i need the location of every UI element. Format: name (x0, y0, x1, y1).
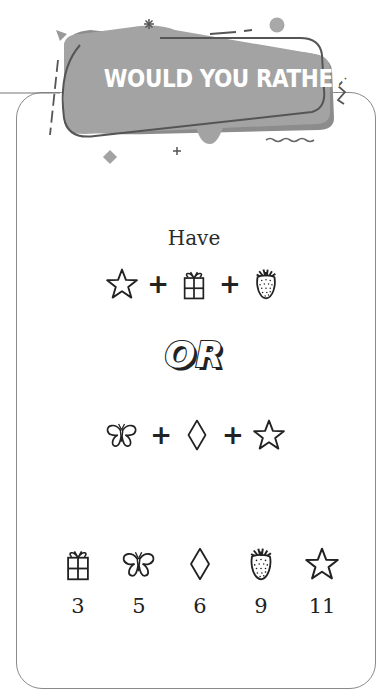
prompt-text: Have (0, 226, 388, 250)
star-icon (105, 267, 139, 301)
plus-sign: + (219, 271, 241, 297)
gift-icon (60, 546, 96, 582)
diamond-icon (180, 418, 214, 452)
or-separator: OR OR (0, 333, 388, 385)
option-a-row: + + (0, 267, 388, 301)
svg-text:OR: OR (165, 334, 223, 375)
plus-sign: + (150, 422, 172, 448)
title-banner: WOULD YOU RATHER (0, 0, 388, 175)
legend-value: 3 (71, 594, 84, 618)
strawberry-icon (243, 546, 279, 582)
strawberry-icon (249, 267, 283, 301)
star-icon (252, 418, 286, 452)
plus-sign: + (147, 271, 169, 297)
butterfly-icon (102, 418, 142, 452)
legend-item-butterfly: 5 (116, 546, 162, 618)
star-icon (304, 546, 340, 582)
legend-value: 9 (254, 594, 267, 618)
diamond-icon (182, 546, 218, 582)
legend-value: 6 (193, 594, 206, 618)
legend-value: 11 (309, 594, 336, 618)
or-text: OR OR (154, 333, 234, 381)
banner-title: WOULD YOU RATHER (104, 64, 298, 93)
legend-item-star: 11 (299, 546, 345, 618)
legend-value: 5 (132, 594, 145, 618)
legend-item-gift: 3 (55, 546, 101, 618)
legend-item-diamond: 6 (177, 546, 223, 618)
option-b-row: + + (0, 418, 388, 452)
plus-sign: + (222, 422, 244, 448)
legend-item-strawberry: 9 (238, 546, 284, 618)
butterfly-icon (118, 546, 160, 582)
gift-icon (177, 267, 211, 301)
value-legend: 3 5 6 9 11 (55, 546, 345, 618)
